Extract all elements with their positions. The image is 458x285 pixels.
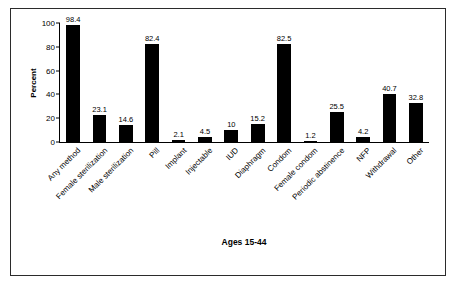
x-tick-label-text: NFP: [355, 146, 373, 164]
bar: 32.8: [409, 103, 423, 142]
x-tick-label: Injectable: [184, 146, 215, 177]
bar: 1.2: [304, 141, 318, 142]
x-tick-label-text: Implant: [163, 146, 188, 171]
y-tick-label: 0: [51, 138, 55, 147]
x-tick-label: Other: [405, 146, 426, 167]
y-axis-title: Percent: [29, 68, 38, 97]
y-tick-mark: [56, 94, 60, 95]
bar: 4.2: [356, 137, 370, 142]
bar-value-label: 14.6: [119, 115, 134, 124]
x-tick-label-text: Periodic abstinence: [290, 146, 346, 202]
y-tick-mark: [56, 118, 60, 119]
x-tick-label-text: Pill: [148, 146, 162, 160]
bar: 82.5: [277, 44, 291, 142]
bar-value-label: 23.1: [92, 105, 107, 114]
x-tick-label-text: IUD: [225, 146, 241, 162]
y-tick-mark: [56, 23, 60, 24]
x-axis-title: Ages 15-44: [59, 237, 429, 247]
bar-value-label: 40.7: [382, 84, 397, 93]
bar: 23.1: [93, 115, 107, 142]
plot-wrapper: Percent 020406080100 98.423.114.682.42.1…: [59, 23, 429, 143]
bar-value-label: 4.2: [358, 127, 368, 136]
chart-frame: Percent 020406080100 98.423.114.682.42.1…: [10, 8, 446, 276]
x-tick-label: Periodic abstinence: [290, 146, 346, 202]
bar: 15.2: [251, 124, 265, 142]
bar-value-label: 25.5: [329, 102, 344, 111]
y-tick-label: 20: [46, 114, 55, 123]
bar: 82.4: [145, 44, 159, 142]
x-tick-label-text: Injectable: [184, 146, 215, 177]
x-tick-label-text: Other: [405, 146, 426, 167]
bar-value-label: 1.2: [305, 131, 315, 140]
x-tick-label: NFP: [355, 146, 373, 164]
bar-value-label: 32.8: [408, 93, 423, 102]
x-tick-label: Pill: [148, 146, 162, 160]
bar: 98.4: [66, 25, 80, 142]
bar: 14.6: [119, 125, 133, 142]
bar: 10: [224, 130, 238, 142]
bar: 25.5: [330, 112, 344, 142]
y-tick-label: 100: [42, 19, 55, 28]
y-tick-label: 80: [46, 42, 55, 51]
bar-value-label: 2.1: [173, 130, 183, 139]
bar-value-label: 4.5: [200, 127, 210, 136]
bar-value-label: 15.2: [250, 114, 265, 123]
y-tick-mark: [56, 142, 60, 143]
x-tick-label: Implant: [163, 146, 188, 171]
bar: 4.5: [198, 137, 212, 142]
bar: 2.1: [172, 140, 186, 142]
bar-value-label: 98.4: [66, 15, 81, 24]
y-tick-mark: [56, 70, 60, 71]
y-tick-label: 60: [46, 66, 55, 75]
bar: 40.7: [383, 94, 397, 142]
bar-value-label: 82.5: [277, 34, 292, 43]
bar-value-label: 10: [227, 120, 235, 129]
x-tick-label: IUD: [225, 146, 241, 162]
y-tick-mark: [56, 46, 60, 47]
y-tick-label: 40: [46, 90, 55, 99]
plot-area: 020406080100 98.423.114.682.42.14.51015.…: [59, 23, 429, 143]
bar-value-label: 82.4: [145, 34, 160, 43]
